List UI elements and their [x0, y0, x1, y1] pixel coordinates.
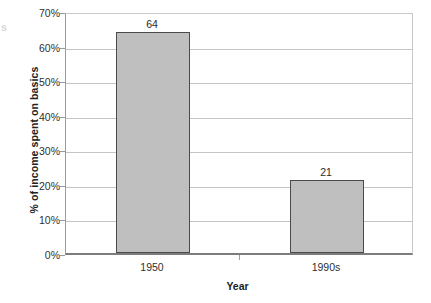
y-axis-tick-label: 70%: [16, 7, 60, 19]
bar-chart: s % of income spent on basics 0%10%20%30…: [0, 0, 431, 303]
y-axis-tick-label: 20%: [16, 180, 60, 192]
bar: [290, 180, 364, 253]
x-axis-title: Year: [226, 280, 248, 292]
x-axis-tick-label: 1990s: [312, 261, 341, 273]
bar-value-label: 64: [146, 18, 158, 30]
y-axis-tick-label: 40%: [16, 111, 60, 123]
plot-area: [65, 13, 413, 255]
y-axis-title: % of income spent on basics: [28, 40, 40, 240]
y-axis-tick-mark: [60, 255, 65, 256]
bar-value-label: 21: [320, 166, 332, 178]
y-axis-tick-label: 30%: [16, 145, 60, 157]
y-axis-tick-label: 50%: [16, 76, 60, 88]
x-axis-tick-label: 1950: [140, 261, 163, 273]
x-axis-tick-mark: [239, 255, 240, 260]
scan-artifact-fragment: s: [1, 22, 7, 33]
bar: [116, 32, 190, 253]
x-axis-title-wrap: Year: [0, 280, 431, 292]
y-axis-tick-label: 60%: [16, 42, 60, 54]
y-axis-tick-label: 0%: [16, 249, 60, 261]
y-axis-tick-label: 10%: [16, 214, 60, 226]
